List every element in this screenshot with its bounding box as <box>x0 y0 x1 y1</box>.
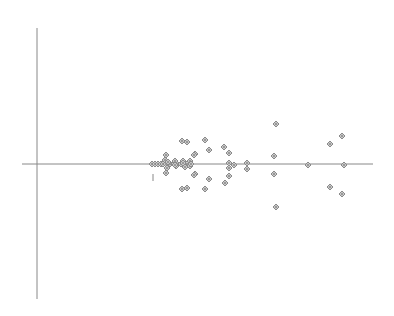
data-point-center <box>208 178 210 180</box>
data-point-center <box>329 186 331 188</box>
data-point-center <box>166 167 168 169</box>
data-point-center <box>174 164 176 166</box>
data-point-center <box>343 164 345 166</box>
data-point-center <box>224 182 226 184</box>
data-point-center <box>329 143 331 145</box>
data-point-center <box>184 166 186 168</box>
data-point-center <box>165 172 167 174</box>
data-point-center <box>204 139 206 141</box>
data-point-center <box>275 123 277 125</box>
data-point-center <box>246 168 248 170</box>
data-point-center <box>208 149 210 151</box>
data-point-center <box>182 162 184 164</box>
data-point-center <box>228 167 230 169</box>
data-point-center <box>186 187 188 189</box>
data-point-center <box>341 135 343 137</box>
data-points <box>149 121 347 210</box>
data-point-center <box>273 155 275 157</box>
data-point-center <box>223 146 225 148</box>
data-point-center <box>307 164 309 166</box>
data-point-center <box>181 140 183 142</box>
data-point-center <box>186 141 188 143</box>
data-point-center <box>193 154 195 156</box>
data-point-center <box>341 193 343 195</box>
data-point-center <box>165 154 167 156</box>
data-point-center <box>228 152 230 154</box>
data-point-center <box>228 162 230 164</box>
data-point-center <box>193 174 195 176</box>
data-point-center <box>204 188 206 190</box>
data-point-center <box>181 188 183 190</box>
data-point-center <box>190 163 192 165</box>
data-point-center <box>273 173 275 175</box>
data-point-center <box>233 164 235 166</box>
data-point-center <box>246 162 248 164</box>
data-point-center <box>275 206 277 208</box>
data-point-center <box>167 161 169 163</box>
data-point-center <box>228 175 230 177</box>
scatter-plot <box>0 0 394 316</box>
